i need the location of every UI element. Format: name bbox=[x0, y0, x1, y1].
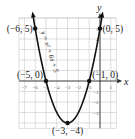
y-tick-label: −3 bbox=[93, 111, 99, 116]
point-label: (−3, −4) bbox=[52, 126, 83, 137]
y-axis-label: y bbox=[96, 2, 102, 13]
x-tick-label: −2 bbox=[76, 85, 82, 90]
data-point bbox=[87, 79, 91, 83]
point-label: (−5, 0) bbox=[17, 70, 43, 81]
x-tick-label: −3 bbox=[65, 85, 71, 90]
x-tick-label: −7 bbox=[22, 85, 28, 90]
y-tick-label: −1 bbox=[93, 90, 99, 95]
data-point bbox=[65, 121, 69, 125]
x-tick-label: 1 bbox=[110, 85, 113, 90]
x-tick-label: −6 bbox=[33, 85, 39, 90]
x-axis-label: x bbox=[123, 76, 129, 87]
y-tick-label: −2 bbox=[93, 100, 99, 105]
curve-arrowheads bbox=[30, 11, 105, 18]
data-point bbox=[33, 26, 37, 30]
curve-arrow-icon bbox=[30, 11, 35, 18]
data-point bbox=[44, 79, 48, 83]
x-tick-label: −4 bbox=[54, 85, 60, 90]
point-label: (−6, 5) bbox=[7, 24, 33, 35]
point-label: (0, 5) bbox=[103, 24, 124, 35]
parabola-graph: −7−6−5−4−3−2−11541−1−2−3 (−6, 5)(0, 5)(−… bbox=[0, 0, 135, 139]
point-label: (−1, 0) bbox=[92, 70, 118, 81]
